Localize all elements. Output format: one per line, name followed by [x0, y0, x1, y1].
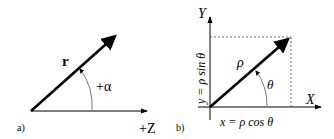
- panel-a: r +α +Z a): [17, 37, 155, 136]
- y-component-formula: y = ρ sin θ: [194, 53, 208, 105]
- x-component-formula: x = ρ cos θ: [219, 115, 273, 129]
- vector-r-label: r: [62, 53, 69, 69]
- vector-r: [31, 37, 114, 111]
- y-axis-label: Y: [198, 6, 208, 21]
- angle-theta-arc: [256, 71, 267, 106]
- vector-rho: [210, 40, 287, 107]
- panel-b-label: b): [176, 122, 184, 134]
- panel-b: Y X ρ θ x = ρ cos θ y = ρ sin θ b): [176, 6, 321, 134]
- angle-theta-label: θ: [267, 77, 274, 92]
- x-axis-label: X: [305, 92, 315, 107]
- z-axis-label: +Z: [139, 121, 155, 136]
- panel-a-label: a): [17, 122, 25, 134]
- vector-rho-label: ρ: [236, 55, 244, 70]
- angle-alpha-arc: [80, 69, 92, 110]
- angle-alpha-label: +α: [96, 79, 112, 94]
- polar-coordinates-diagram: r +α +Z a) Y X ρ θ x = ρ cos θ y = ρ sin…: [0, 0, 334, 139]
